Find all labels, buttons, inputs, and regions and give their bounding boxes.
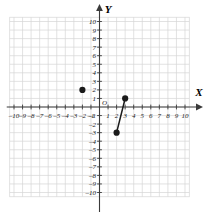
x-axis-tick-label: 9 — [175, 112, 179, 120]
y-axis-tick-label: 7 — [93, 44, 97, 52]
isolated-point — [79, 87, 85, 93]
y-axis-tick-label: –6 — [88, 155, 97, 163]
y-axis-tick-label: 10 — [89, 18, 97, 26]
y-axis-tick-label: –5 — [88, 146, 97, 154]
y-axis-tick-label: –9 — [88, 180, 97, 188]
y-axis-tick-label: –3 — [88, 129, 97, 137]
x-axis-tick-label: 6 — [149, 112, 153, 120]
x-axis-tick-label: –10 — [8, 112, 20, 120]
x-axis-tick-label: 4 — [132, 112, 136, 120]
x-axis-tick-label: 8 — [166, 112, 170, 120]
x-axis-label: X — [194, 86, 203, 98]
y-axis-tick-label: –4 — [88, 138, 97, 146]
x-axis-tick-label: –5 — [52, 112, 61, 120]
x-axis-tick-label: 2 — [115, 112, 119, 120]
segment-upper-endpoint — [122, 95, 128, 101]
x-axis-tick-label: –4 — [61, 112, 70, 120]
x-axis-tick-label: –9 — [18, 112, 27, 120]
y-axis-tick-label: –2 — [88, 121, 97, 129]
y-axis-tick-label: 5 — [93, 61, 97, 69]
y-axis-tick-label: –7 — [88, 163, 97, 171]
y-axis-label: Y — [105, 3, 113, 15]
segment-lower-endpoint — [114, 130, 120, 136]
x-axis-tick-label: –2 — [78, 112, 87, 120]
y-axis-tick-label: 2 — [93, 86, 97, 94]
x-axis-tick-label: 1 — [106, 112, 110, 120]
y-axis-tick-label: 9 — [93, 27, 97, 35]
x-axis-tick-label: 10 — [182, 112, 190, 120]
x-axis-tick-label: –6 — [44, 112, 53, 120]
x-axis-tick-label: 7 — [158, 112, 162, 120]
y-axis-tick-label: 1 — [93, 95, 97, 103]
y-axis-tick-label: –8 — [88, 172, 97, 180]
x-axis-tick-label: –3 — [69, 112, 78, 120]
y-axis-tick-label: 6 — [93, 52, 97, 60]
axes — [7, 4, 203, 212]
y-axis-tick-label: –1 — [88, 112, 96, 120]
y-axis-tick-label: 8 — [93, 35, 97, 43]
origin-label: O — [102, 99, 107, 107]
x-axis-tick-label: –7 — [35, 112, 44, 120]
x-axis-arrowhead — [196, 104, 203, 111]
y-axis-tick-label: 3 — [92, 78, 97, 86]
y-axis-arrowhead — [96, 4, 103, 11]
x-axis-tick-label: 5 — [141, 112, 145, 120]
x-axis-tick-label: –8 — [27, 112, 36, 120]
y-axis-tick-label: –10 — [85, 189, 97, 197]
coordinate-plane-svg: –10–9–8–7–6–5–4–3–2–11234567891010987654… — [0, 0, 208, 215]
coordinate-plane-graph: –10–9–8–7–6–5–4–3–2–11234567891010987654… — [0, 0, 208, 215]
x-axis-tick-label: 3 — [122, 112, 127, 120]
y-axis-tick-label: 4 — [93, 69, 97, 77]
